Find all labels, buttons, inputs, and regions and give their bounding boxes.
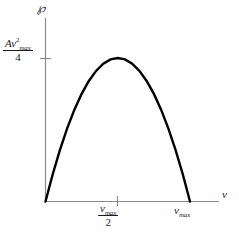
plot-canvas (0, 0, 239, 241)
x-axis-tick-label-midpoint: vmax 2 (98, 203, 118, 228)
fraction-numerator: vmax (98, 203, 118, 216)
fraction-denominator: 2 (98, 216, 118, 228)
subscript-max: max (19, 44, 30, 51)
fraction-a-vmax-squared-over-4: Av2max 4 (3, 38, 33, 63)
parabola-curve (46, 58, 191, 202)
power-vs-speed-figure: ℘ Av2max 4 vmax 2 vmax v (0, 0, 239, 241)
y-axis-tick-label: Av2max 4 (3, 38, 33, 63)
subscript-max: max (179, 211, 190, 218)
fraction-denominator: 4 (3, 51, 33, 63)
fraction-numerator: Av2max (3, 38, 33, 51)
y-axis-symbol-label: ℘ (37, 2, 45, 14)
exponent-two: 2 (16, 36, 19, 43)
x-axis-symbol-label: v (222, 189, 227, 200)
fraction-vmax-over-2: vmax 2 (98, 203, 118, 228)
x-axis-tick-label-endpoint: vmax (174, 205, 190, 216)
